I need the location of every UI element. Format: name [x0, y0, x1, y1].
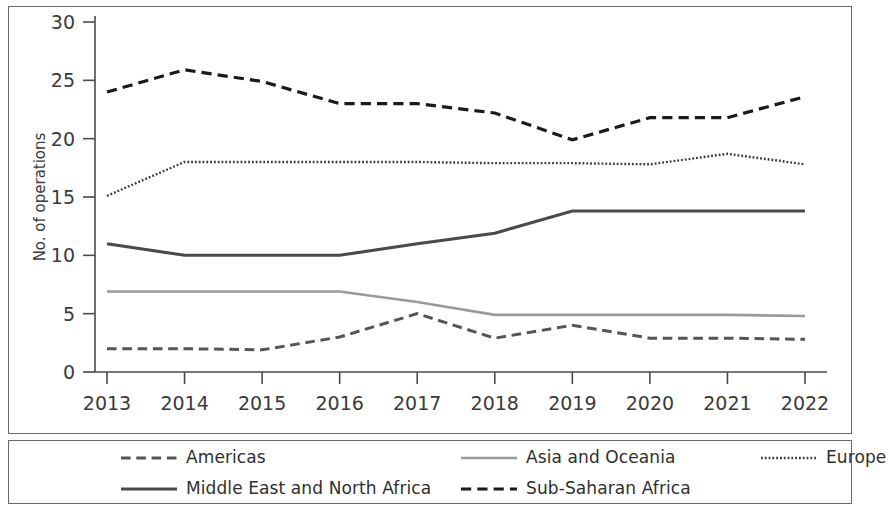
series-line-middle-east-and-north-africa	[107, 211, 805, 255]
series-line-europe	[107, 154, 805, 196]
y-tick-label: 15	[51, 186, 75, 208]
x-tick-label: 2021	[703, 392, 751, 414]
legend-panel: Americas Middle East and North Africa As…	[8, 440, 852, 504]
legend-items: Americas Middle East and North Africa As…	[9, 441, 853, 503]
series-group	[107, 70, 805, 350]
x-tick-label: 2019	[548, 392, 596, 414]
series-line-asia-and-oceania	[107, 292, 805, 317]
y-tick-label: 20	[51, 128, 75, 150]
legend-item-europe[interactable]: Europe	[761, 447, 890, 467]
legend-label-europe: Europe	[826, 447, 886, 467]
series-line-sub-saharan-africa	[107, 70, 805, 140]
chart-panel: 051015202530 201320142015201620172018201…	[8, 6, 852, 434]
x-tick-label: 2018	[471, 392, 519, 414]
legend-swatch-europe-icon	[761, 450, 817, 464]
line-chart-plot: 051015202530 201320142015201620172018201…	[9, 7, 851, 433]
y-tick-label: 25	[51, 69, 75, 91]
y-axis-label: No. of operations	[31, 132, 49, 261]
y-axis-title: No. of operations	[31, 132, 49, 261]
legend-label-middle-east-and-north-africa: Middle East and North Africa	[186, 478, 431, 498]
x-tick-label: 2016	[315, 392, 363, 414]
series-line-americas	[107, 314, 805, 350]
y-axis: 051015202530	[51, 11, 95, 383]
legend-item-americas[interactable]: Americas	[121, 447, 461, 467]
legend-item-asia-and-oceania[interactable]: Asia and Oceania	[461, 447, 761, 467]
y-tick-label: 5	[63, 303, 75, 325]
x-tick-label: 2017	[393, 392, 441, 414]
x-axis: 2013201420152016201720182019202020212022	[83, 372, 829, 414]
y-tick-label: 0	[63, 361, 75, 383]
legend-swatch-asia-icon	[461, 450, 517, 464]
x-tick-label: 2022	[781, 392, 829, 414]
legend-label-americas: Americas	[186, 447, 266, 467]
x-tick-label: 2015	[238, 392, 286, 414]
y-tick-label: 30	[51, 11, 75, 33]
x-tick-label: 2020	[626, 392, 674, 414]
x-tick-label: 2013	[83, 392, 131, 414]
legend-item-middle-east-and-north-africa[interactable]: Middle East and North Africa	[121, 478, 461, 498]
legend-swatch-mena-icon	[121, 481, 177, 495]
x-tick-label: 2014	[160, 392, 208, 414]
legend-swatch-sub-saharan-africa-icon	[461, 481, 517, 495]
y-tick-label: 10	[51, 244, 75, 266]
legend-item-sub-saharan-africa[interactable]: Sub-Saharan Africa	[461, 478, 761, 498]
legend-label-asia-and-oceania: Asia and Oceania	[526, 447, 676, 467]
legend-label-sub-saharan-africa: Sub-Saharan Africa	[526, 478, 691, 498]
legend-swatch-americas-icon	[121, 450, 177, 464]
